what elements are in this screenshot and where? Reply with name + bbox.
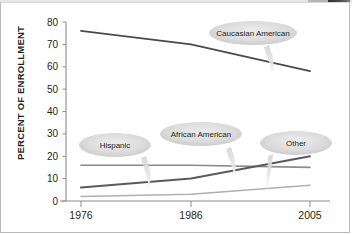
y-axis-title: PERCENT OF ENROLLMENT [15, 26, 26, 160]
series-line-african-american [81, 165, 310, 167]
y-tick-label-50: 50 [47, 84, 59, 95]
callout-other: Other [260, 131, 332, 190]
series-line-other [81, 185, 310, 196]
x-tick-label-1976: 1976 [69, 209, 93, 221]
y-tick-label-30: 30 [47, 128, 59, 139]
callout-tail-caucasian [264, 45, 274, 73]
callout-african-american: African American [160, 122, 242, 176]
callout-label-other: Other [286, 139, 306, 148]
enrollment-line-chart: PERCENT OF ENROLLMENT 80 70 60 50 40 30 … [0, 0, 352, 234]
series-line-hispanic [81, 156, 310, 187]
y-axis [63, 22, 67, 201]
y-tick-label-20: 20 [47, 151, 59, 162]
y-tick-label-10: 10 [47, 173, 59, 184]
callout-label-african: African American [171, 130, 231, 139]
chart-svg: PERCENT OF ENROLLMENT 80 70 60 50 40 30 … [0, 0, 352, 234]
screenshot-root: PERCENT OF ENROLLMENT 80 70 60 50 40 30 … [0, 0, 352, 234]
callout-hispanic: Hispanic [79, 133, 151, 188]
y-tick-label-0: 0 [52, 196, 58, 207]
callout-tail-other [266, 154, 273, 190]
x-axis [60, 201, 330, 207]
y-tick-label-60: 60 [47, 61, 59, 72]
x-tick-label-1986: 1986 [179, 209, 203, 221]
y-tick-label-70: 70 [47, 39, 59, 50]
y-tick-label-80: 80 [47, 17, 59, 28]
y-tick-label-40: 40 [47, 106, 59, 117]
callout-label-hispanic: Hispanic [100, 141, 131, 150]
callout-label-caucasian: Caucasian American [216, 29, 289, 38]
x-tick-label-2005: 2005 [298, 209, 322, 221]
